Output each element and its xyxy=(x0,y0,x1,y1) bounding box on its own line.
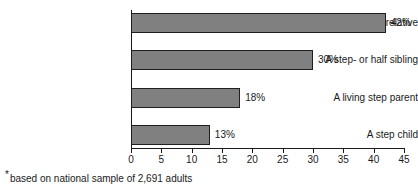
x-tick-5 xyxy=(161,149,162,153)
bar-value-0: 42% xyxy=(391,18,411,28)
x-axis-line xyxy=(131,148,405,149)
x-tick-label-20: 20 xyxy=(247,155,258,165)
x-tick-label-30: 30 xyxy=(307,155,318,165)
x-tick-20 xyxy=(252,149,253,153)
footnote-asterisk: * xyxy=(5,169,9,180)
bar-2 xyxy=(131,88,240,108)
bar-3 xyxy=(131,125,210,145)
x-tick-30 xyxy=(313,149,314,153)
bar-value-1: 30% xyxy=(318,55,338,65)
x-tick-25 xyxy=(283,149,284,153)
plot-area: At least one step-relative 42% A step- o… xyxy=(0,0,418,193)
bar-value-3: 13% xyxy=(215,130,235,140)
x-tick-10 xyxy=(192,149,193,153)
footnote: *based on national sample of 2,691 adult… xyxy=(5,173,192,185)
bar-chart: At least one step-relative 42% A step- o… xyxy=(0,0,418,193)
x-tick-label-25: 25 xyxy=(277,155,288,165)
category-label-2: A living step parent xyxy=(290,93,418,103)
x-tick-label-45: 45 xyxy=(398,155,409,165)
bar-0 xyxy=(131,13,386,33)
footnote-text: based on national sample of 2,691 adults xyxy=(10,173,192,184)
x-tick-label-0: 0 xyxy=(128,155,134,165)
bar-1 xyxy=(131,50,313,70)
x-tick-0 xyxy=(131,149,132,153)
x-tick-15 xyxy=(222,149,223,153)
x-tick-label-40: 40 xyxy=(368,155,379,165)
x-tick-45 xyxy=(404,149,405,153)
x-tick-label-35: 35 xyxy=(338,155,349,165)
x-tick-40 xyxy=(374,149,375,153)
x-tick-label-5: 5 xyxy=(159,155,165,165)
x-tick-label-10: 10 xyxy=(186,155,197,165)
bar-value-2: 18% xyxy=(245,93,265,103)
x-tick-label-15: 15 xyxy=(216,155,227,165)
category-label-3: A step child xyxy=(290,130,418,140)
x-tick-35 xyxy=(343,149,344,153)
